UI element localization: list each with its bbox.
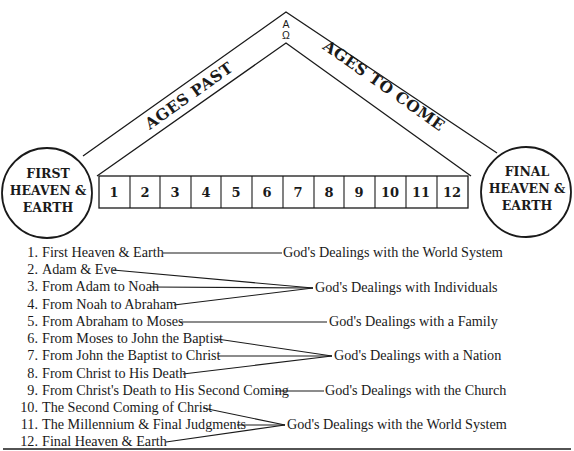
ages-past-label: AGES PAST [140,58,236,134]
list-item-label: Adam & Eve [42,261,117,278]
group-label-church: God's Dealings with the Church [325,382,506,399]
roof-outer-line [83,12,497,156]
list-item-label: From Adam to Noah [42,278,159,295]
right-circle-line-3: EARTH [502,198,553,213]
age-boxes: 1 2 3 4 5 6 7 8 9 10 11 12 [99,176,468,208]
left-circle-line-1: FIRST [26,166,70,181]
group-label-individuals: God's Dealings with Individuals [315,279,498,296]
box-2: 2 [140,185,149,200]
box-1: 1 [109,185,118,200]
left-circle-line-2: HEAVEN & [10,183,87,198]
list-item-label: First Heaven & Earth [42,244,164,261]
box-6: 6 [262,185,271,200]
list-item-label: From Moses to John the Baptist [42,330,223,347]
list-item-label: From Christ to His Death [42,365,186,382]
list-item-label: The Second Coming of Christ [42,399,212,416]
list-item-label: From John the Baptist to Christ [42,347,221,364]
ages-to-come-label: AGES TO COME [319,35,449,135]
group-label-world-system-future: God's Dealings with the World System [287,416,507,433]
list-item-label: From Christ's Death to His Second Coming [42,382,289,399]
right-circle-line-2: HEAVEN & [489,181,566,196]
box-5: 5 [231,185,240,200]
roof-bands [83,12,497,176]
group-label-nation: God's Dealings with a Nation [334,347,501,364]
list-item-label: Final Heaven & Earth [42,433,167,450]
group-label-world-system-past: God's Dealings with the World System [283,244,503,261]
list-item-label: The Millennium & Final Judgments [42,416,246,433]
group-label-family: God's Dealings with a Family [329,313,498,330]
box-3: 3 [170,185,179,200]
box-9: 9 [354,185,363,200]
omega-symbol: Ω [282,29,290,41]
box-8: 8 [324,185,333,200]
box-11: 11 [412,185,430,200]
left-circle-line-3: EARTH [23,200,74,215]
list-item-label: From Noah to Abraham [42,296,177,313]
box-10: 10 [381,185,399,200]
box-7: 7 [293,185,302,200]
right-circle-line-1: FINAL [505,164,550,179]
list-item-label: From Abraham to Moses [42,313,183,330]
box-12: 12 [443,185,461,200]
box-4: 4 [201,185,210,200]
